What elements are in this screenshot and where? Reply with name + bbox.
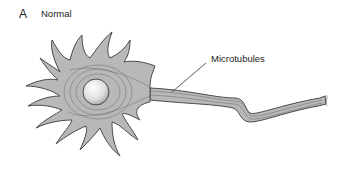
neuron-diagram: [0, 0, 340, 191]
nucleus: [83, 79, 109, 105]
microtubules-leader-line: [172, 63, 206, 92]
